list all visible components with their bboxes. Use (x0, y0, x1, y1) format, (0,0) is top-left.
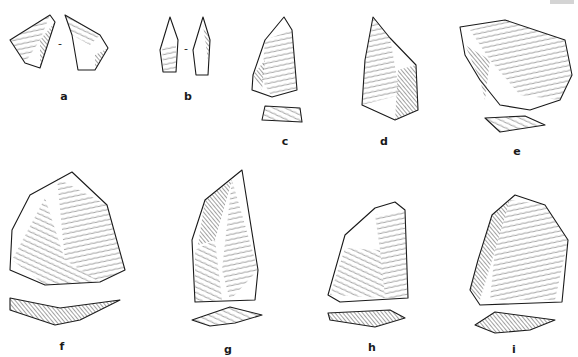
label-f: f (60, 340, 65, 353)
label-i: i (512, 343, 516, 356)
artifact-g (192, 170, 262, 326)
label-h: h (368, 341, 376, 354)
artifact-d (362, 17, 418, 120)
separator-b: - (184, 42, 188, 55)
label-b: b (184, 90, 192, 103)
artifact-plate (0, 0, 578, 357)
artifact-h (328, 202, 408, 327)
label-d: d (380, 135, 388, 148)
artifact-f (10, 172, 125, 325)
label-c: c (282, 135, 289, 148)
label-a: a (60, 90, 67, 103)
artifact-i (470, 195, 568, 333)
label-e: e (513, 145, 520, 158)
artifact-c (252, 17, 302, 122)
label-g: g (224, 343, 232, 356)
artifact-e (460, 20, 572, 132)
separator-a: - (58, 37, 62, 50)
